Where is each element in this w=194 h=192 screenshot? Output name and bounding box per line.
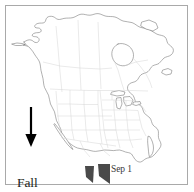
date-label-sep-1: Sep 1 [111, 165, 132, 175]
fall-migration-arrow [22, 106, 40, 148]
fall-migration-label: Fall Migration [17, 148, 70, 192]
migration-map-figure: Fall Migration Sep 1 [0, 0, 194, 192]
fall-migration-label-line1: Fall [17, 176, 70, 190]
